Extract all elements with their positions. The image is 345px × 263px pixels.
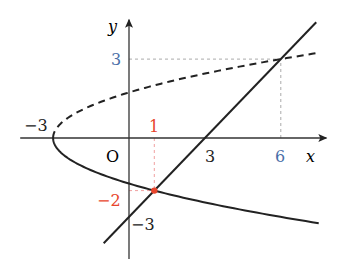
tick-label-x-3: 3 (205, 147, 215, 166)
tick-label-y-neg3: −3 (131, 215, 155, 234)
chart: x y O −3 3 6 1 3 −2 −3 (0, 0, 345, 263)
series-0 (53, 53, 319, 138)
tick-label-y-3: 3 (111, 50, 121, 69)
origin-label: O (106, 147, 119, 166)
points (151, 187, 157, 193)
tick-label-x-6: 6 (275, 147, 285, 166)
point-0 (151, 187, 157, 193)
tick-label-x-1: 1 (149, 117, 159, 136)
y-axis-label: y (107, 17, 118, 36)
series-2 (104, 22, 317, 243)
series (53, 22, 319, 243)
tick-label-x-neg3: −3 (24, 116, 48, 135)
tick-label-y-neg2: −2 (97, 191, 121, 210)
x-axis-label: x (306, 147, 315, 166)
